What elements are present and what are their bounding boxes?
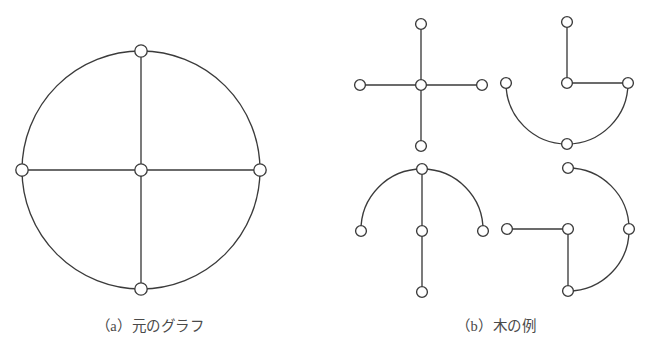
caption-panel-a: （a）元のグラフ bbox=[0, 314, 300, 335]
tree-bottom-left-node-center[interactable] bbox=[417, 226, 428, 237]
tree-top-left-node-top[interactable] bbox=[416, 19, 427, 30]
tree-bottom-left-node-right[interactable] bbox=[478, 226, 489, 237]
graph-node-center[interactable] bbox=[135, 164, 147, 176]
graph-arc-bottom-left bbox=[22, 170, 141, 289]
graph-node-right[interactable] bbox=[254, 164, 266, 176]
panel-b-trees bbox=[355, 17, 635, 298]
tree-bottom-left bbox=[356, 164, 489, 298]
tree-top-right-node-bottom[interactable] bbox=[562, 139, 573, 150]
tree-bottom-right-node-bottom[interactable] bbox=[563, 286, 574, 297]
tree-top-left-node-right[interactable] bbox=[477, 80, 488, 91]
graph-node-left[interactable] bbox=[16, 164, 28, 176]
tree-top-right-arc-left-bottom bbox=[506, 83, 567, 144]
graph-node-top[interactable] bbox=[135, 45, 147, 57]
tree-bottom-right-arc-top-right bbox=[568, 168, 629, 229]
tree-bottom-left-arc-top-right bbox=[422, 169, 483, 231]
tree-top-left-node-bottom[interactable] bbox=[416, 141, 427, 152]
tree-bottom-right-node-right[interactable] bbox=[624, 224, 635, 235]
tree-top-right-node-right[interactable] bbox=[623, 78, 634, 89]
figure-canvas bbox=[0, 0, 646, 352]
tree-bottom-right-node-top[interactable] bbox=[563, 163, 574, 174]
tree-bottom-right bbox=[502, 163, 635, 297]
tree-top-left-node-left[interactable] bbox=[355, 80, 366, 91]
graph-arc-top-right bbox=[141, 51, 260, 170]
tree-bottom-left-node-bottom[interactable] bbox=[417, 287, 428, 298]
tree-bottom-right-node-center[interactable] bbox=[563, 224, 574, 235]
figure-root: （a）元のグラフ （b）木の例 bbox=[0, 0, 646, 352]
tree-top-left bbox=[355, 19, 488, 152]
graph-node-bottom[interactable] bbox=[135, 283, 147, 295]
tree-top-right-node-left[interactable] bbox=[501, 78, 512, 89]
tree-top-right-node-center[interactable] bbox=[562, 78, 573, 89]
tree-bottom-left-node-left[interactable] bbox=[356, 226, 367, 237]
panel-a-graph bbox=[16, 45, 266, 295]
tree-top-right-node-top[interactable] bbox=[562, 17, 573, 28]
tree-bottom-right-arc-right-bottom bbox=[568, 229, 629, 291]
tree-top-right-arc-bottom-right bbox=[567, 83, 628, 144]
tree-bottom-left-arc-left-top bbox=[361, 169, 422, 231]
caption-panel-b: （b）木の例 bbox=[346, 314, 646, 335]
graph-arc-left-top bbox=[22, 51, 141, 170]
tree-top-left-node-center[interactable] bbox=[416, 80, 427, 91]
tree-top-right bbox=[501, 17, 634, 150]
graph-arc-right-bottom bbox=[141, 170, 260, 289]
tree-bottom-right-node-left[interactable] bbox=[502, 224, 513, 235]
tree-bottom-left-node-top[interactable] bbox=[417, 164, 428, 175]
